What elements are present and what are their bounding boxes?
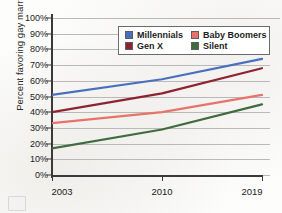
y-tick-label: 0% <box>12 171 48 180</box>
x-tick-label: 2010 <box>151 186 172 197</box>
y-tick-label: 90% <box>12 29 48 38</box>
y-tick-label: 70% <box>12 61 48 70</box>
y-axis-tick-labels: 0%10%20%30%40%50%60%70%80%90%100% <box>8 0 48 213</box>
series-line-baby-boomers <box>52 95 262 123</box>
legend-label: Silent <box>203 41 228 51</box>
y-tick-mark <box>46 159 52 160</box>
y-tick-mark <box>46 143 52 144</box>
legend-swatch-icon <box>125 42 133 50</box>
legend-entry-gen-x[interactable]: Gen X <box>125 41 183 51</box>
legend-label: Gen X <box>137 41 163 51</box>
y-tick-label: 100% <box>12 14 48 23</box>
y-tick-mark <box>46 49 52 50</box>
y-tick-label: 20% <box>12 139 48 148</box>
x-tick-label: 2003 <box>51 186 72 197</box>
y-tick-mark <box>46 33 52 34</box>
y-tick-label: 80% <box>12 45 48 54</box>
legend-label: Baby Boomers <box>203 30 267 40</box>
y-tick-mark <box>46 18 52 19</box>
y-tick-label: 50% <box>12 92 48 101</box>
line-chart: Percent favoring gay marriage 0%10%20%30… <box>0 0 282 213</box>
y-tick-label: 40% <box>12 108 48 117</box>
y-tick-label: 10% <box>12 155 48 164</box>
scan-artifact <box>8 196 26 211</box>
y-tick-label: 30% <box>12 123 48 132</box>
series-line-silent <box>52 104 262 148</box>
y-tick-mark <box>46 112 52 113</box>
legend-swatch-icon <box>191 31 199 39</box>
legend-swatch-icon <box>191 42 199 50</box>
y-tick-label: 60% <box>12 76 48 85</box>
legend-entry-silent[interactable]: Silent <box>191 41 267 51</box>
y-tick-mark <box>46 65 52 66</box>
legend-entry-baby-boomers[interactable]: Baby Boomers <box>191 30 267 40</box>
legend-label: Millennials <box>137 30 183 40</box>
x-tick-mark <box>52 175 53 181</box>
chart-legend: MillennialsBaby BoomersGen XSilent <box>118 26 270 55</box>
x-tick-mark <box>262 175 263 181</box>
x-tick-label: 2019 <box>241 186 262 197</box>
y-tick-mark <box>46 96 52 97</box>
x-tick-mark <box>162 175 163 181</box>
legend-swatch-icon <box>125 31 133 39</box>
y-tick-mark <box>46 80 52 81</box>
y-tick-mark <box>46 127 52 128</box>
legend-entry-millennials[interactable]: Millennials <box>125 30 183 40</box>
